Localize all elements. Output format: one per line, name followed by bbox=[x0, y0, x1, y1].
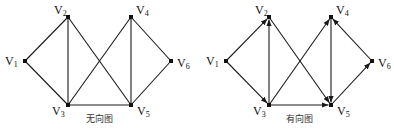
edge-v1-v3 bbox=[25, 61, 68, 105]
edge-v5-v6 bbox=[331, 63, 370, 105]
undirected-graph-caption: 无向图 bbox=[86, 112, 113, 125]
node-v3 bbox=[66, 103, 70, 107]
node-v3 bbox=[267, 103, 271, 107]
node-label-v6: V6 bbox=[177, 57, 190, 71]
node-label-v1: V1 bbox=[206, 55, 219, 69]
edge-v1-v2 bbox=[25, 17, 68, 61]
directed-graph: 有向图 V1V2V3V4V5V6 bbox=[200, 0, 394, 133]
node-v5 bbox=[329, 103, 333, 107]
edge-v4-v6 bbox=[131, 17, 171, 61]
edge-v1-v3 bbox=[226, 61, 267, 103]
undirected-graph: 无向图 V1V2V3V4V5V6 bbox=[0, 0, 197, 133]
node-label-v2: V2 bbox=[54, 4, 67, 18]
node-label-v5: V5 bbox=[337, 105, 350, 119]
node-v1 bbox=[224, 59, 228, 63]
node-v6 bbox=[370, 59, 374, 63]
edge-v5-v6 bbox=[131, 61, 171, 105]
node-v5 bbox=[129, 103, 133, 107]
node-label-v6: V6 bbox=[378, 57, 391, 71]
directed-graph-caption: 有向图 bbox=[286, 112, 313, 125]
node-v1 bbox=[23, 59, 27, 63]
node-v4 bbox=[129, 15, 133, 19]
edge-v3-v4 bbox=[269, 19, 330, 105]
edge-v6-v4 bbox=[333, 19, 372, 61]
node-label-v4: V4 bbox=[336, 4, 349, 18]
node-v6 bbox=[169, 59, 173, 63]
node-label-v2: V2 bbox=[255, 4, 268, 18]
node-label-v1: V1 bbox=[5, 55, 18, 69]
edge-v2-v5 bbox=[269, 17, 330, 103]
edge-v1-v2 bbox=[226, 19, 267, 61]
node-label-v3: V3 bbox=[253, 105, 266, 119]
node-label-v5: V5 bbox=[137, 105, 150, 119]
node-label-v3: V3 bbox=[52, 105, 65, 119]
node-label-v4: V4 bbox=[136, 4, 149, 18]
node-v4 bbox=[329, 15, 333, 19]
